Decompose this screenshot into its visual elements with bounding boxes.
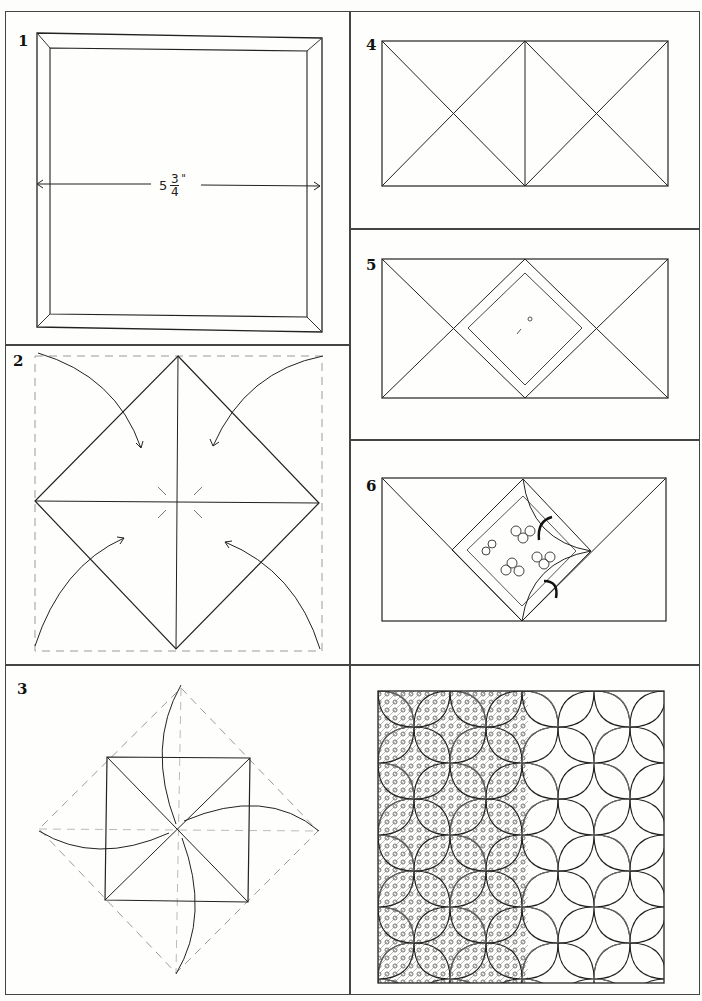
- panel-finished-quilt: [350, 665, 700, 995]
- measure-whole: 5: [159, 178, 167, 193]
- measure-fraction: 3 4: [170, 173, 179, 198]
- measure-numerator: 3: [171, 173, 179, 185]
- fold-edges-over-print-diagram: [351, 441, 701, 666]
- panel-step-4: 4: [350, 11, 700, 229]
- panel-step-2: 2: [5, 345, 350, 665]
- finished-cathedral-window-pattern: [351, 666, 701, 996]
- panel-step-5: 5: [350, 229, 700, 440]
- panel-step-3: 3: [5, 665, 350, 995]
- measure-denominator: 4: [171, 186, 179, 198]
- two-folded-squares-joined-diagram: [351, 12, 701, 230]
- contrast-square-placed-diagram: [351, 230, 701, 441]
- dimension-label: 5 3 4 ": [156, 173, 189, 198]
- fold-corners-to-center-diagram: [6, 346, 351, 666]
- fold-corners-again-diagram: [6, 666, 351, 996]
- panel-step-6: 6: [350, 440, 700, 665]
- measure-unit: ": [181, 173, 186, 184]
- panel-step-1: 1 5 3 4 ": [5, 11, 350, 345]
